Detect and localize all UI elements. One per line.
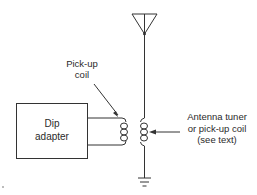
antenna-tuner-label: Antenna tuner or pick-up coil (see text) [178,111,256,146]
pickup-coil-icon [121,118,128,145]
stray-dot [2,186,4,188]
antenna-tuner-label-line3: (see text) [178,134,256,146]
dip-adapter-label-line2: adapter [22,130,82,143]
diagram-canvas [0,0,257,195]
tuner-arrowhead-icon [149,130,156,135]
antenna-tuner-label-line1: Antenna tuner [178,111,256,123]
antenna-icon [132,14,157,35]
antenna-tuner-label-line2: or pick-up coil [178,123,256,135]
antenna-tuner-coil-icon [141,118,148,146]
dip-adapter-label-line1: Dip [22,117,82,130]
ground-icon [138,178,151,186]
pickup-coil-label-line1: Pick-up [64,58,100,69]
pickup-coil-pointer-line [94,84,118,115]
dip-adapter-label: Dip adapter [22,117,82,143]
pickup-coil-label-line2: coil [64,69,100,80]
pickup-coil-label: Pick-up coil [64,58,100,80]
